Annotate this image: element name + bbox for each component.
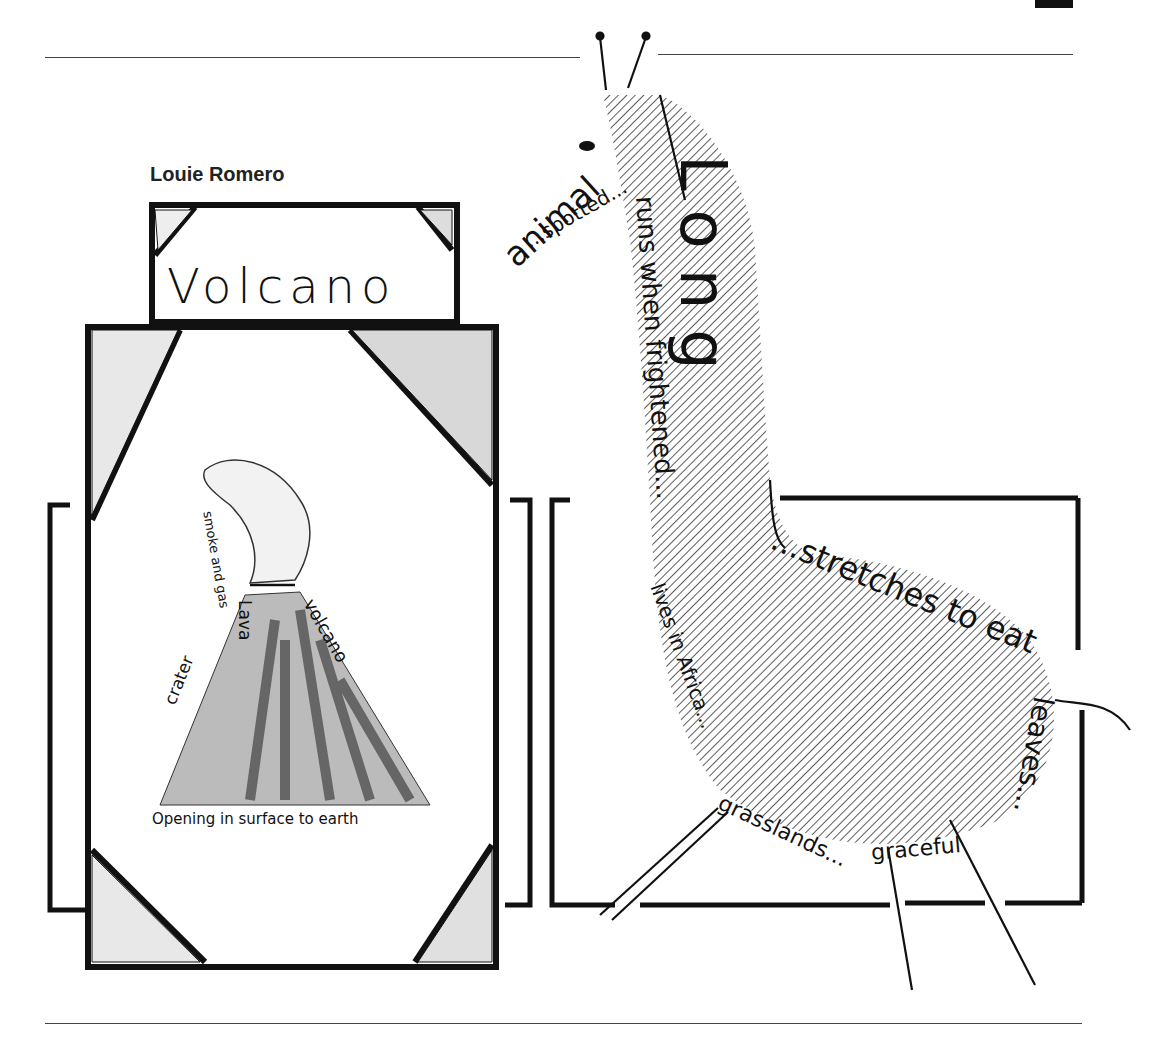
volcano-base-caption: Opening in surface to earth <box>152 810 358 828</box>
giraffe-word-long: Long <box>666 155 740 390</box>
volcano-center-words: Lava <box>235 600 255 640</box>
volcano-title: Volcano <box>167 258 396 314</box>
giraffe-eye <box>579 141 595 151</box>
illustration-canvas <box>0 0 1172 1055</box>
